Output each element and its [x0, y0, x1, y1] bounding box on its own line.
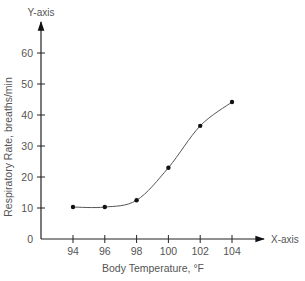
data-points [71, 100, 234, 209]
y-tick-label: 60 [21, 47, 33, 59]
data-curve [73, 102, 232, 208]
y-tick-label: 40 [21, 109, 33, 121]
y-tick-label: 20 [21, 171, 33, 183]
x-tick-label: 96 [99, 245, 111, 257]
y-tick-label: 10 [21, 202, 33, 214]
y-axis-tag: Y-axis [28, 7, 55, 18]
y-tick-label: 50 [21, 78, 33, 90]
x-tick-label: 98 [131, 245, 143, 257]
data-point [230, 100, 234, 104]
x-tick-label: 94 [67, 245, 79, 257]
x-tick-label: 102 [191, 245, 209, 257]
x-axis-title: Body Temperature, °F [102, 262, 204, 274]
x-tick-group: 949698100102104 [67, 235, 241, 257]
y-axis-title: Respiratory Rate, breaths/min [2, 77, 14, 217]
y-tick-label: 0 [27, 233, 33, 245]
data-point [134, 198, 138, 202]
data-point [71, 205, 75, 209]
x-tick-label: 104 [223, 245, 241, 257]
data-point [103, 205, 107, 209]
x-axis-tag: X-axis [271, 234, 299, 245]
data-point [166, 166, 170, 170]
line-chart: Y-axis X-axis 0102030405060 949698100102… [0, 0, 305, 281]
x-tick-label: 100 [160, 245, 178, 257]
data-point [198, 124, 202, 128]
y-tick-label: 30 [21, 140, 33, 152]
